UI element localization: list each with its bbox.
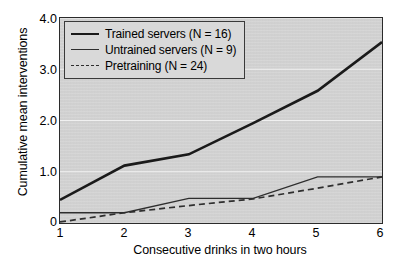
legend-label-trained: Trained servers (N = 16): [105, 27, 231, 41]
chart-legend: Trained servers (N = 16) Untrained serve…: [64, 21, 245, 79]
x-tick-label-1: 1: [48, 226, 72, 240]
legend-item-trained: Trained servers (N = 16): [71, 26, 236, 42]
x-tick-label-2: 2: [112, 226, 136, 240]
legend-item-untrained: Untrained servers (N = 9): [71, 42, 236, 58]
legend-line-solid-thick-icon: [71, 28, 99, 40]
series-line-untrained: [60, 177, 382, 213]
x-axis-title: Consecutive drinks in two hours: [59, 243, 381, 257]
y-tick-label-2: 2.0: [17, 115, 57, 127]
x-tick-label-5: 5: [304, 226, 328, 240]
x-tick-label-6: 6: [368, 226, 392, 240]
y-tick-label-1: 1.0: [17, 166, 57, 178]
legend-label-untrained: Untrained servers (N = 9): [105, 43, 236, 57]
y-tick-label-4: 4.0: [17, 13, 57, 25]
x-tick-label-4: 4: [240, 226, 264, 240]
y-axis-title: Cumulative mean interventions: [14, 0, 32, 228]
x-tick-label-3: 3: [176, 226, 200, 240]
y-tick-label-3: 3.0: [17, 64, 57, 76]
legend-line-solid-thin-icon: [71, 44, 99, 56]
chart-figure: Cumulative mean interventions 4.0 3.0 2.…: [0, 0, 398, 264]
series-line-pretraining: [60, 177, 382, 222]
legend-item-pretraining: Pretraining (N = 24): [71, 58, 236, 74]
legend-line-dashed-icon: [71, 60, 99, 72]
legend-label-pretraining: Pretraining (N = 24): [105, 59, 207, 73]
